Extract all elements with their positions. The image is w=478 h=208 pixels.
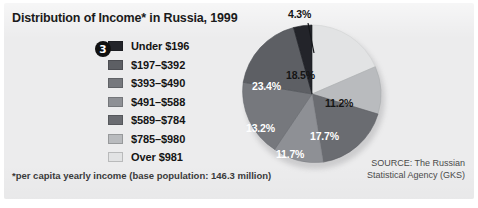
legend-item-over-981[interactable]: Over $981 [108, 148, 228, 167]
legend-item-label: Over $981 [131, 151, 183, 163]
legend-item-label: Under $196 [131, 40, 189, 52]
source-line-2: Statistical Agency (GKS) [335, 170, 465, 182]
legend-item-491-588[interactable]: $491–$588 [108, 93, 228, 112]
legend-swatch-icon [108, 78, 123, 88]
legend-swatch-icon [108, 115, 123, 125]
pie-label-491-588: 11.7% [276, 148, 304, 160]
footnote-text: *per capita yearly income (base populati… [12, 170, 271, 181]
legend-swatch-icon [108, 152, 123, 162]
callout-leader-line [304, 22, 324, 54]
chart-figure: Distribution of Income* in Russia, 1999 … [0, 0, 478, 208]
legend-item-785-980[interactable]: $785–$980 [108, 130, 228, 149]
pie-label-785-980: 11.2% [325, 97, 353, 109]
legend-swatch-icon [108, 134, 123, 144]
legend-item-label: $785–$980 [131, 133, 185, 145]
legend-item-197-392[interactable]: $197–$392 [108, 56, 228, 75]
pie-label-393-490: 13.2% [246, 122, 275, 134]
source-attribution: SOURCE: The Russian Statistical Agency (… [335, 158, 465, 181]
legend-swatch-icon [108, 97, 123, 107]
legend-item-393-490[interactable]: $393–$490 [108, 74, 228, 93]
legend-item-label: $197–$392 [131, 59, 185, 71]
legend-item-label: $589–$784 [131, 114, 185, 126]
chart-legend: Under $196 $197–$392 $393–$490 $491–$588… [108, 37, 228, 167]
source-line-1: SOURCE: The Russian [335, 158, 465, 170]
pie-label-over-981: 18.5% [286, 69, 315, 81]
pie-label-under-196: 4.3% [288, 8, 311, 20]
page-title: Distribution of Income* in Russia, 1999 [12, 11, 237, 25]
pie-label-197-392: 23.4% [252, 80, 281, 92]
legend-item-label: $393–$490 [131, 77, 185, 89]
legend-item-589-784[interactable]: $589–$784 [108, 111, 228, 130]
step-badge-3[interactable]: 3 [95, 41, 111, 57]
legend-item-under-196[interactable]: Under $196 [108, 37, 228, 56]
legend-item-label: $491–$588 [131, 96, 185, 108]
pie-label-589-784: 17.7% [310, 130, 339, 142]
legend-swatch-icon [108, 60, 123, 70]
